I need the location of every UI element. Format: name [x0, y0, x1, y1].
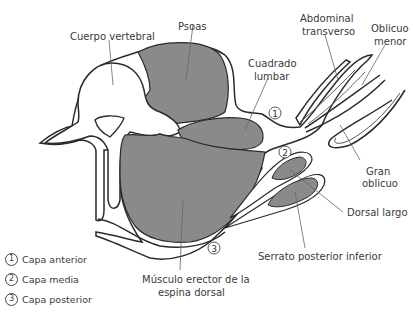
svg-text:3: 3	[211, 244, 217, 254]
legend-number-2: 2	[5, 273, 18, 286]
legend-label: Capa posterior	[22, 294, 92, 305]
label-cuerpo-vertebral: Cuerpo vertebral	[70, 31, 155, 42]
legend-label: Capa anterior	[22, 254, 87, 265]
svg-text:2: 2	[282, 148, 288, 158]
label-serrato: Serrato posterior inferior	[258, 251, 383, 262]
label-psoas: Psoas	[178, 21, 207, 32]
gran-oblicuo	[329, 90, 405, 148]
label-cuadrado-1: Cuadrado	[248, 58, 297, 69]
legend-label: Capa media	[22, 274, 79, 285]
label-oblicuo-menor-2: menor	[374, 36, 407, 47]
label-erector-2: espina dorsal	[158, 287, 225, 298]
erector-spinae-muscle	[120, 134, 265, 242]
label-dorsal-largo: Dorsal largo	[347, 207, 408, 218]
svg-text:1: 1	[272, 109, 278, 119]
legend-number-3: 3	[5, 293, 18, 306]
label-erector-1: Músculo erector de la	[142, 274, 250, 285]
legend-item-anterior: 1 Capa anterior	[5, 249, 92, 269]
marker-2: 2	[279, 146, 291, 158]
legend-item-posterior: 3 Capa posterior	[5, 289, 92, 309]
label-gran-oblicuo-2: oblicuo	[362, 178, 398, 189]
label-oblicuo-menor-1: Oblicuo	[371, 23, 409, 34]
label-gran-oblicuo-1: Gran	[366, 166, 390, 177]
label-cuadrado-2: lumbar	[254, 71, 290, 82]
legend-number-1: 1	[5, 253, 18, 266]
marker-1: 1	[269, 107, 281, 119]
marker-3: 3	[208, 242, 220, 254]
label-abdominal-1: Abdominal	[300, 13, 353, 24]
label-abdominal-2: transverso	[302, 26, 355, 37]
legend: 1 Capa anterior 2 Capa media 3 Capa post…	[5, 249, 92, 309]
legend-item-media: 2 Capa media	[5, 269, 92, 289]
